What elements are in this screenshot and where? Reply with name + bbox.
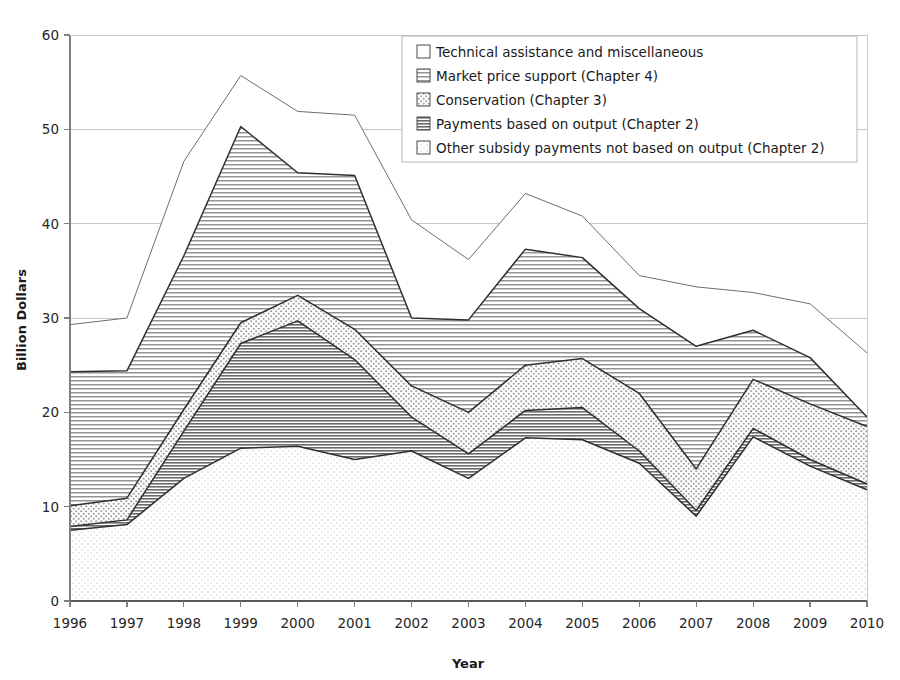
y-tick-label: 30: [42, 310, 59, 326]
y-tick-label: 50: [42, 121, 59, 137]
legend-item[interactable]: Conservation (Chapter 3): [417, 92, 607, 108]
legend-swatch: [417, 69, 430, 82]
legend-swatch: [417, 141, 430, 154]
x-tick-label: 2005: [565, 615, 599, 631]
y-axis-title: Billion Dollars: [14, 269, 29, 371]
y-tick-label: 40: [42, 216, 59, 232]
x-tick-label: 2001: [337, 615, 371, 631]
x-tick-label: 2010: [850, 615, 884, 631]
legend-label: Market price support (Chapter 4): [436, 68, 658, 84]
x-tick-label: 2009: [793, 615, 827, 631]
x-axis-title: Year: [451, 656, 485, 671]
stacked-area-chart: 0102030405060 19961997199819992000200120…: [0, 0, 900, 680]
y-tick-label: 20: [42, 404, 59, 420]
y-axis-ticks: 0102030405060: [42, 27, 70, 609]
legend-label: Conservation (Chapter 3): [436, 92, 607, 108]
legend-item[interactable]: Market price support (Chapter 4): [417, 68, 658, 84]
legend-item[interactable]: Technical assistance and miscellaneous: [417, 44, 703, 60]
x-tick-label: 2002: [394, 615, 428, 631]
chart-legend: Technical assistance and miscellaneousMa…: [402, 36, 857, 162]
x-tick-label: 1997: [110, 615, 144, 631]
legend-swatch: [417, 93, 430, 106]
y-tick-label: 60: [42, 27, 59, 43]
x-tick-label: 2006: [622, 615, 656, 631]
x-tick-label: 2008: [736, 615, 770, 631]
legend-label: Other subsidy payments not based on outp…: [436, 140, 825, 156]
legend-swatch: [417, 117, 430, 130]
legend-item[interactable]: Payments based on output (Chapter 2): [417, 116, 699, 132]
chart-canvas: 0102030405060 19961997199819992000200120…: [0, 0, 900, 680]
y-tick-label: 0: [50, 593, 59, 609]
x-axis-ticks: 1996199719981999200020012002200320042005…: [53, 601, 884, 631]
legend-label: Payments based on output (Chapter 2): [436, 116, 699, 132]
x-tick-label: 2003: [451, 615, 485, 631]
x-tick-label: 2000: [281, 615, 315, 631]
x-tick-label: 2007: [679, 615, 713, 631]
x-tick-label: 1998: [167, 615, 201, 631]
legend-item[interactable]: Other subsidy payments not based on outp…: [417, 140, 825, 156]
y-tick-label: 10: [42, 499, 59, 515]
x-tick-label: 2004: [508, 615, 542, 631]
legend-label: Technical assistance and miscellaneous: [435, 44, 703, 60]
x-tick-label: 1996: [53, 615, 87, 631]
legend-swatch: [417, 45, 430, 58]
x-tick-label: 1999: [224, 615, 258, 631]
